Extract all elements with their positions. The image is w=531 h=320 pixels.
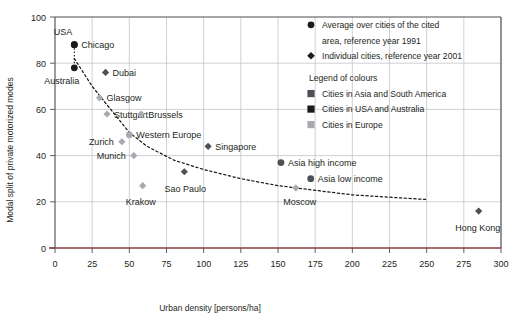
point-marker-circle [71,64,78,71]
point-marker-diamond [103,110,110,117]
point-label: Moscow [283,197,317,207]
legend-diamond-marker [307,52,315,60]
legend-entry-label-cont: area, reference year 1991 [322,36,421,46]
point-marker-diamond [475,207,482,214]
y-tick-label: 100 [31,13,46,23]
y-tick-label: 60 [36,105,46,115]
point-marker-diamond [96,94,103,101]
point-label: Brussels [148,110,183,120]
y-tick-label: 40 [36,151,46,161]
chart-figure: 0255075100125150175200225250275300020406… [0,0,531,320]
point-marker-diamond [292,184,299,191]
point-marker-circle [71,41,78,48]
point-marker-circle [278,159,285,166]
point-label: Australia [44,76,79,86]
x-tick-label: 50 [124,259,134,269]
legend-entry-label: Individual cities, reference year 2001 [322,51,462,61]
x-tick-label: 275 [456,259,471,269]
point-label: Chicago [81,40,114,50]
x-tick-label: 250 [419,259,434,269]
point-marker-diamond [205,143,212,150]
legend-colour-swatch [307,105,314,112]
x-tick-label: 0 [52,259,57,269]
x-axis-label: Urban density [persons/ha] [159,303,261,313]
y-tick-label: 20 [36,197,46,207]
x-tick-label: 100 [196,259,211,269]
legend-circle-marker [308,21,315,28]
x-tick-label: 200 [345,259,360,269]
legend-colour-title: Legend of colours [309,73,377,83]
x-tick-label: 150 [270,259,285,269]
point-marker-circle [307,175,314,182]
point-label: Western Europe [136,130,201,140]
point-label: Krakow [126,197,157,207]
point-label: Asia low income [318,174,383,184]
point-marker-circle [126,131,133,138]
y-tick-label: 0 [41,244,46,254]
point-label: Munich [97,151,126,161]
x-tick-label: 175 [308,259,323,269]
point-marker-diamond [139,182,146,189]
point-marker-diamond [102,69,109,76]
point-label: USA [54,27,73,37]
chart-legend: Average over cities of the citedarea, re… [307,20,462,130]
point-marker-diamond [181,168,188,175]
scatter-plot-svg: 0255075100125150175200225250275300020406… [0,0,531,320]
legend-colour-swatch [307,121,314,128]
point-label: Zurich [89,137,114,147]
point-label: Hong Kong [455,223,500,233]
legend-colour-label: Cities in Europe [322,120,383,130]
x-tick-label: 300 [493,259,508,269]
y-axis-label: Modal split of private motorized modes [5,77,15,223]
point-marker-diamond [130,152,137,159]
legend-colour-label: Cities in Asia and South America [322,89,446,99]
legend-entry-label: Average over cities of the cited [322,20,440,30]
point-label: Sao Paulo [165,184,207,194]
point-label: Asia high income [288,158,357,168]
legend-colour-swatch [307,90,314,97]
point-label: Dubai [113,68,137,78]
legend-colour-label: Cities in USA and Australia [322,104,424,114]
point-label: Glasgow [107,93,143,103]
x-tick-label: 225 [382,259,397,269]
x-tick-label: 125 [233,259,248,269]
point-label: Singapore [215,142,256,152]
point-marker-diamond [118,138,125,145]
y-tick-label: 80 [36,59,46,69]
x-tick-label: 25 [87,259,97,269]
x-tick-label: 75 [161,259,171,269]
